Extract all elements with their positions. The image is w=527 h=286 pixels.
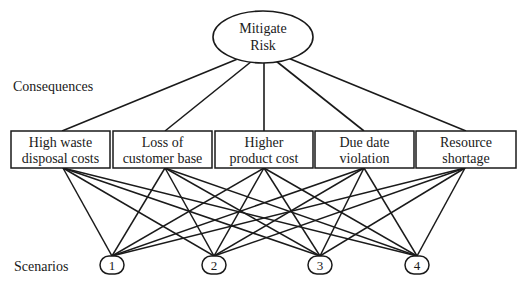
goal-ellipse: [213, 11, 313, 63]
edge-goal-c1: [62, 58, 240, 131]
scenarios-level-label: Scenarios: [14, 259, 68, 274]
scenario-node: 2: [202, 256, 226, 274]
scenario-edges: [63, 168, 465, 256]
consequence-node: Resource shortage: [416, 131, 516, 168]
goal-label-line1: Mitigate: [239, 21, 286, 36]
consequence-label-line2: shortage: [442, 151, 489, 166]
goal-node: Mitigate Risk: [213, 11, 313, 63]
consequence-node: Due date violation: [315, 131, 414, 168]
consequence-label-line1: Higher: [245, 135, 284, 150]
scenario-node: 1: [100, 256, 124, 274]
consequence-label-line1: High waste: [29, 135, 92, 150]
consequence-label-line2: customer base: [123, 151, 203, 166]
goal-edges: [62, 58, 466, 131]
edge-goal-c5: [288, 58, 466, 131]
scenario-label: 2: [211, 258, 218, 273]
consequence-node: High waste disposal costs: [11, 131, 110, 168]
consequence-label-line1: Resource: [440, 135, 492, 150]
consequence-label-line2: violation: [340, 151, 390, 166]
consequences-level-label: Consequences: [13, 79, 93, 94]
scenario-label: 3: [317, 258, 324, 273]
scenario-label: 1: [109, 258, 116, 273]
consequence-label-line1: Due date: [339, 135, 389, 150]
consequence-label-line1: Loss of: [142, 135, 184, 150]
consequence-node: Loss of customer base: [113, 131, 212, 168]
risk-hierarchy-diagram: Mitigate Risk Consequences Scenarios Hig…: [0, 0, 527, 286]
goal-label-line2: Risk: [250, 38, 276, 53]
scenario-node: 4: [405, 256, 429, 274]
consequence-label-line2: disposal costs: [22, 151, 99, 166]
consequence-label-line2: product cost: [230, 151, 299, 166]
scenario-label: 4: [414, 258, 421, 273]
scenario-node: 3: [308, 256, 332, 274]
consequence-node: Higher product cost: [215, 131, 313, 168]
